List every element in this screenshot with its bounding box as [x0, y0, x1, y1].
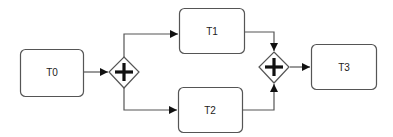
gateway-parallel-split[interactable]: [109, 57, 139, 88]
gateway-parallel-join[interactable]: [259, 52, 289, 83]
flow-g1-t1: [124, 34, 178, 57]
task-t1[interactable]: T1: [180, 9, 245, 54]
task-t0[interactable]: T0: [21, 50, 84, 97]
process-diagram: T0 T1 T2 T3: [0, 0, 393, 137]
task-t2-label: T2: [204, 105, 216, 116]
task-t0-label: T0: [46, 67, 58, 78]
task-t3[interactable]: T3: [312, 45, 377, 90]
task-t3-label: T3: [338, 62, 350, 73]
task-t1-label: T1: [206, 26, 218, 37]
task-t2[interactable]: T2: [179, 88, 243, 133]
flow-g1-t2: [124, 88, 177, 110]
flow-t2-g2: [242, 84, 274, 110]
flow-t1-g2: [244, 32, 274, 51]
